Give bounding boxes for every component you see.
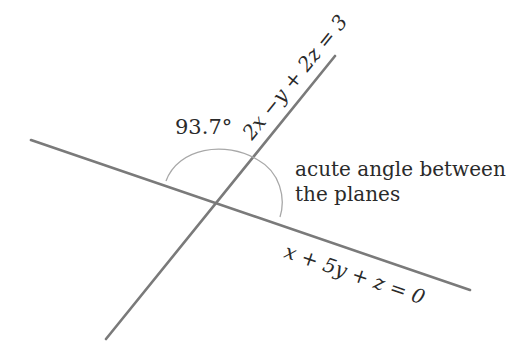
plane1-equation: 2x −y + 2z = 3	[237, 10, 353, 145]
annotation-line-2: the planes	[295, 182, 400, 206]
planes-diagram: 93.7° 2x −y + 2z = 3 acute angle between…	[0, 0, 524, 360]
angle-label: 93.7°	[175, 115, 232, 139]
annotation-line-1: acute angle between	[295, 157, 506, 181]
